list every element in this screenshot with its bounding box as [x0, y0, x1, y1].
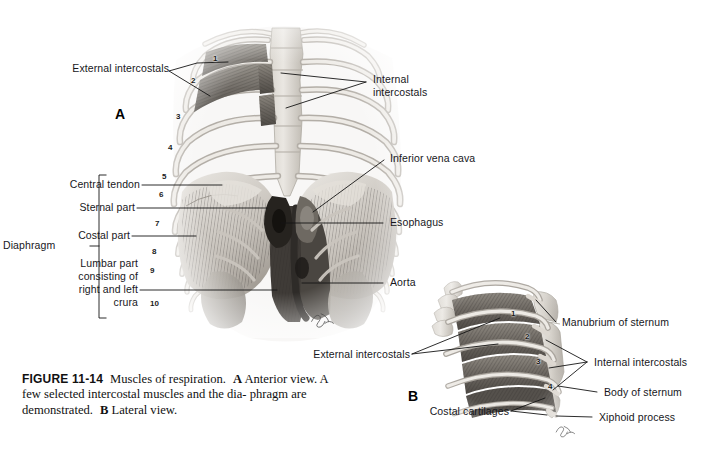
rib-number-4-a: 4	[168, 143, 172, 152]
label-lumbar-part-line2: consisting of	[0, 270, 138, 283]
figure-title: Muscles of respiration.	[110, 372, 226, 386]
leader-external-intercostals-a	[169, 62, 228, 96]
caption-b-text: Lateral view.	[112, 403, 178, 417]
rib-number-8-a: 8	[152, 247, 156, 256]
leader-costal-cartilages-b	[511, 398, 547, 415]
leader-manubrium	[536, 300, 556, 322]
rib-number-1-a: 1	[213, 54, 217, 63]
leader-external-intercostals-b	[412, 318, 500, 354]
caption-marker-a: A	[233, 372, 242, 386]
rib-number-6-a: 6	[159, 190, 163, 199]
rib-number-10-a: 10	[150, 299, 159, 308]
label-external-intercostals-a: External intercostals	[0, 62, 169, 75]
label-esophagus: Esophagus	[390, 216, 443, 229]
leader-inferior-vena-cava	[313, 160, 384, 212]
label-internal-intercostals-a-line1: Internal	[373, 73, 409, 86]
figure-11-14: External intercostals Internal intercost…	[0, 0, 701, 451]
rib-number-3-b: 3	[536, 357, 540, 366]
figure-number: FIGURE 11-14	[22, 372, 103, 386]
label-lumbar-part-line3: right and left	[0, 283, 138, 296]
label-lumbar-part-line1: Lumbar part	[0, 257, 138, 270]
label-xiphoid-process: Xiphoid process	[599, 411, 675, 424]
rib-number-2-b: 2	[525, 332, 529, 341]
label-costal-part: Costal part	[0, 229, 130, 242]
label-internal-intercostals-a-line2: intercostals	[373, 86, 427, 99]
label-inferior-vena-cava: Inferior vena cava	[390, 152, 475, 165]
rib-number-7-a: 7	[155, 219, 159, 228]
label-aorta: Aorta	[390, 276, 416, 289]
panel-letter-b: B	[408, 388, 418, 404]
label-internal-intercostals-b: Internal intercostals	[594, 356, 687, 369]
label-manubrium-of-sternum: Manubrium of sternum	[562, 316, 669, 329]
rib-number-1-b: 1	[511, 309, 515, 318]
rib-number-4-b: 4	[548, 382, 552, 391]
leader-body-of-sternum	[558, 386, 597, 392]
label-lumbar-part-line4: crura	[0, 296, 138, 309]
leader-xiphoid-process	[556, 416, 592, 417]
label-body-of-sternum: Body of sternum	[604, 386, 682, 399]
label-sternal-part: Sternal part	[0, 201, 135, 214]
label-costal-cartilages: Costal cartilages	[410, 405, 509, 418]
caption-a-text: Anterior	[244, 372, 287, 386]
rib-number-9-a: 9	[150, 266, 154, 275]
rib-number-5-a: 5	[162, 172, 166, 181]
label-central-tendon: Central tendon	[0, 178, 140, 191]
panel-letter-a: A	[115, 106, 125, 122]
leader-internal-intercostals-a	[281, 73, 366, 108]
rib-number-2-a: 2	[191, 76, 195, 85]
caption-marker-b: B	[100, 403, 108, 417]
label-external-intercostals-b: External intercostals	[300, 348, 410, 361]
figure-caption: FIGURE 11-14Muscles of respiration.A Ant…	[22, 372, 334, 418]
rib-number-3-a: 3	[176, 112, 180, 121]
